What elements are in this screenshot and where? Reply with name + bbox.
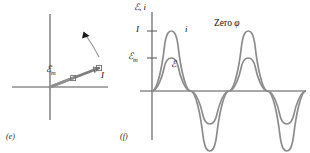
emf-phasor-label: ℰm: [46, 64, 56, 76]
emf-curve-label: ℰ: [171, 59, 176, 69]
panel-f-tag: (f): [120, 132, 128, 141]
panel-e-group: [12, 14, 108, 120]
panel-e-tag: (e): [6, 132, 15, 141]
figure-canvas: [0, 0, 310, 153]
current-phasor-label: I: [101, 70, 104, 80]
rotation-arrow-head-icon: [82, 32, 90, 39]
emf-phasor-shaft: [50, 78, 73, 87]
tick-label-I: I: [136, 24, 139, 34]
current-curve-label: i: [185, 24, 188, 34]
tick-label-emf: ℰm: [128, 51, 138, 63]
rotation-arc: [85, 34, 99, 57]
zero-phase-annotation: Zero φ: [214, 18, 240, 28]
panel-f-group: [140, 12, 306, 151]
panel-f-axis-label: ℰ, i: [134, 2, 146, 12]
figure-container: ℰm I (e) ℰ, i I ℰm i ℰ Zero φ (f): [0, 0, 310, 153]
